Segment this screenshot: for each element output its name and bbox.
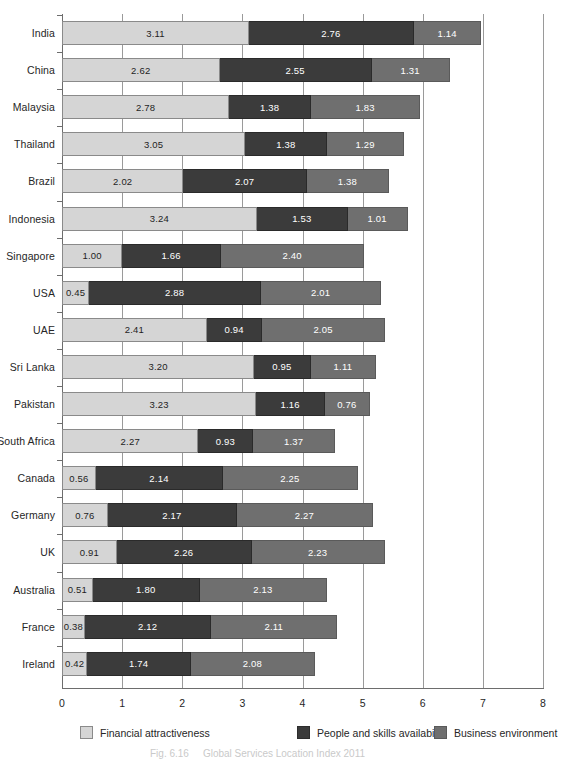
bar-row: Malaysia2.781.381.83 [62,95,543,119]
bar-value-label: 1.74 [129,658,148,669]
bar-segment[interactable]: 2.02 [62,169,183,193]
bar-segment[interactable]: 3.20 [62,355,254,379]
bar-segment[interactable]: 2.55 [219,58,372,82]
bar-segment[interactable]: 2.25 [222,466,357,490]
bar-stack: 3.051.381.29 [62,132,403,156]
bar-segment[interactable]: 0.51 [62,578,93,602]
legend-item[interactable]: Financial attractiveness [80,726,210,739]
bar-segment[interactable]: 2.11 [210,615,337,639]
bar-segment[interactable]: 0.95 [253,355,310,379]
bar-value-label: 1.66 [161,250,180,261]
bar-segment[interactable]: 1.14 [413,21,482,45]
bar-segment[interactable]: 0.56 [62,466,96,490]
bar-segment[interactable]: 1.80 [92,578,200,602]
bar-segment[interactable]: 0.45 [62,281,89,305]
bar-segment[interactable]: 1.01 [347,207,408,231]
bar-stack: 3.231.160.76 [62,392,369,416]
bar-segment[interactable]: 1.31 [371,58,450,82]
bar-segment[interactable]: 3.23 [62,392,256,416]
chart-legend: Financial attractivenessPeople and skill… [62,726,532,742]
bar-row: UK0.912.262.23 [62,540,543,564]
bar-segment[interactable]: 1.38 [244,132,327,156]
y-axis-label-germany: Germany [11,509,55,521]
bar-segment[interactable]: 1.11 [310,355,377,379]
bar-segment[interactable]: 2.01 [260,281,381,305]
y-axis-label-thailand: Thailand [14,138,55,150]
bar-segment[interactable]: 1.16 [255,392,325,416]
bar-segment[interactable]: 2.26 [116,540,252,564]
bar-value-label: 2.76 [321,28,340,39]
bar-value-label: 1.01 [367,213,386,224]
y-axis-label-australia: Australia [13,584,55,596]
bar-value-label: 2.26 [174,547,193,558]
bar-segment[interactable]: 2.14 [95,466,224,490]
bar-segment[interactable]: 1.66 [121,244,221,268]
bar-segment[interactable]: 2.78 [62,95,229,119]
bar-stack: 0.912.262.23 [62,540,384,564]
legend-item[interactable]: People and skills availabilty [297,726,445,739]
bar-segment[interactable]: 2.05 [261,318,384,342]
bar-segment[interactable]: 2.40 [220,244,364,268]
legend-item[interactable]: Business environment [434,726,557,739]
bar-segment[interactable]: 2.76 [248,21,414,45]
bar-segment[interactable]: 0.42 [62,652,87,676]
bar-value-label: 2.11 [264,621,283,632]
bar-segment[interactable]: 2.13 [199,578,327,602]
bar-value-label: 1.29 [355,139,374,150]
bar-segment[interactable]: 2.27 [236,503,372,527]
bar-segment[interactable]: 2.41 [62,318,207,342]
bar-value-label: 2.78 [136,102,155,113]
bar-value-label: 1.31 [401,65,420,76]
bar-segment[interactable]: 1.74 [86,652,191,676]
bar-value-label: 0.76 [75,510,94,521]
y-axis-label-india: India [32,27,55,39]
bar-segment[interactable]: 1.53 [256,207,348,231]
bar-value-label: 0.95 [272,361,291,372]
y-axis-label-singapore: Singapore [6,250,55,262]
bar-segment[interactable]: 1.37 [252,429,334,453]
bar-segment[interactable]: 2.23 [251,540,385,564]
bar-row: UAE2.410.942.05 [62,318,543,342]
bar-segment[interactable]: 0.38 [62,615,85,639]
y-tick-mark [57,163,62,164]
bar-segment[interactable]: 1.00 [62,244,122,268]
caption-number: Fig. 6.16 [150,748,189,759]
bar-segment[interactable]: 3.05 [62,132,245,156]
bar-segment[interactable]: 1.38 [306,169,389,193]
bar-value-label: 0.45 [66,287,85,298]
bar-segment[interactable]: 0.91 [62,540,117,564]
bar-segment[interactable]: 2.08 [190,652,315,676]
bar-segment[interactable]: 0.76 [62,503,108,527]
bar-value-label: 0.38 [64,621,83,632]
bar-segment[interactable]: 1.29 [326,132,404,156]
bar-segment[interactable]: 3.11 [62,21,249,45]
bar-row: Canada0.562.142.25 [62,466,543,490]
bar-value-label: 3.11 [146,28,165,39]
bar-stack: 3.241.531.01 [62,207,407,231]
y-tick-mark [57,52,62,53]
x-tick-label-8: 8 [540,697,546,709]
plot-area: India3.112.761.14China2.622.551.31Malays… [62,14,543,688]
bar-value-label: 2.27 [121,436,140,447]
bar-stack: 0.562.142.25 [62,466,357,490]
bar-segment[interactable]: 2.27 [62,429,198,453]
bar-value-label: 2.01 [311,287,330,298]
bar-segment[interactable]: 1.83 [310,95,420,119]
bar-stack: 2.622.551.31 [62,58,449,82]
legend-swatch-icon [80,726,93,739]
bar-segment[interactable]: 0.93 [197,429,253,453]
bar-segment[interactable]: 2.12 [84,615,211,639]
bar-segment[interactable]: 2.62 [62,58,220,82]
bar-segment[interactable]: 3.24 [62,207,257,231]
bar-segment[interactable]: 2.07 [182,169,306,193]
bar-segment[interactable]: 0.76 [324,392,370,416]
bar-row: Ireland0.421.742.08 [62,652,543,676]
bar-value-label: 3.20 [149,361,168,372]
y-tick-mark [57,572,62,573]
y-tick-mark [57,534,62,535]
bar-segment[interactable]: 0.94 [206,318,263,342]
bar-segment[interactable]: 2.17 [107,503,237,527]
y-tick-mark [57,89,62,90]
bar-segment[interactable]: 1.38 [228,95,311,119]
bar-segment[interactable]: 2.88 [88,281,261,305]
